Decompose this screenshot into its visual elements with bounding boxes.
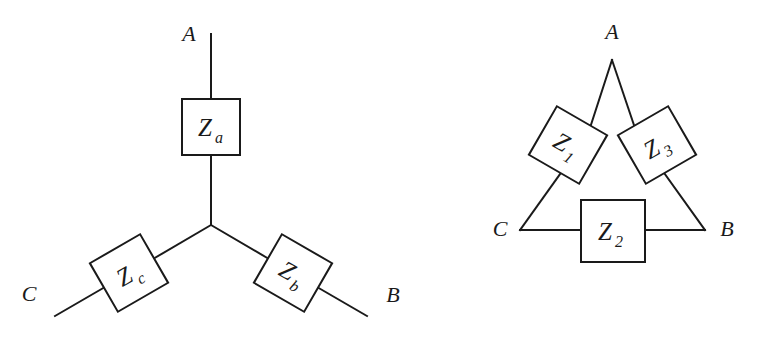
impedance-zb[interactable]: Z b: [254, 234, 332, 311]
wye-lead-c-lower: [55, 287, 105, 316]
impedance-z2[interactable]: Z 2: [581, 200, 645, 262]
wye-lead-b-upper: [211, 225, 269, 259]
wye-terminal-label-a: A: [180, 21, 196, 46]
impedance-za[interactable]: Z a: [182, 99, 240, 155]
impedance-z3-box: [618, 106, 696, 183]
impedance-z3[interactable]: Z 3: [618, 106, 696, 183]
impedance-z1-box: [529, 106, 607, 183]
delta-lead-ca-lower: [520, 170, 563, 230]
delta-lead-ab-upper: [612, 60, 637, 134]
wye-lead-c-upper: [153, 225, 211, 259]
delta-terminal-label-a: A: [603, 19, 619, 44]
wye-terminal-label-b: B: [386, 282, 399, 307]
delta-terminal-label-b: B: [720, 216, 733, 241]
impedance-z2-label: Z: [598, 218, 613, 245]
wye-network: Z a Z c Z b A C B: [22, 21, 400, 316]
impedance-za-subscript: a: [215, 129, 223, 146]
figure-root: Z a Z c Z b A C B: [0, 0, 769, 339]
impedance-z1[interactable]: Z 1: [529, 106, 607, 183]
delta-lead-ab-lower: [662, 170, 705, 230]
delta-network: Z 1 Z 3 Z 2 A C B: [493, 19, 734, 262]
wye-terminal-label-c: C: [22, 281, 37, 306]
wye-lead-b-lower: [317, 287, 367, 316]
delta-lead-ca-upper: [588, 60, 612, 134]
circuit-diagram-canvas: Z a Z c Z b A C B: [0, 0, 769, 339]
impedance-z2-subscript: 2: [615, 233, 623, 250]
impedance-za-label: Z: [198, 114, 213, 141]
impedance-z2-box: [581, 200, 645, 262]
delta-terminal-label-c: C: [493, 216, 508, 241]
impedance-zc[interactable]: Z c: [90, 234, 168, 311]
